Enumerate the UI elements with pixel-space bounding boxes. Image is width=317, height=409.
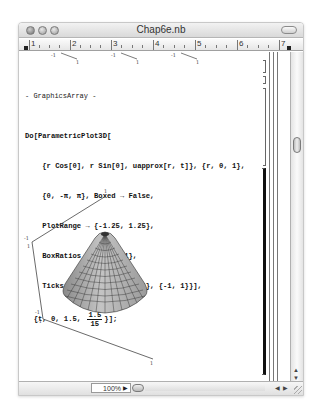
scroll-up-arrow[interactable]: ▲ [293,367,299,373]
group-bracket-line[interactable] [277,52,278,382]
axis-tick-label: -1 [37,318,42,324]
scroll-left-arrow[interactable]: ◀ [275,384,280,391]
previous-graphics-tail [19,52,277,72]
selected-output-bracket[interactable] [262,168,266,375]
cone-surface-graphic [19,192,219,367]
scroll-right-arrow[interactable]: ▶ [283,384,288,391]
code-line: Do[ParametricPlot3D[ [25,131,245,141]
horizontal-scroll-thumb[interactable] [132,384,144,392]
axis-tick-label: 1 [150,360,153,366]
notebook-window: Chap6e.nb 1 2 3 4 5 6 7 -1 1 -1 [18,22,304,396]
ruler-number: 3 [113,39,117,48]
group-bracket-line[interactable] [269,52,270,382]
tick-label: -1 [171,52,176,58]
resize-grip-icon[interactable] [294,386,302,394]
ruler-tick [279,40,280,50]
parametric-plot-3d[interactable]: 1 -1 1 -1 -1 1 [19,192,219,367]
cell-bracket[interactable] [263,76,266,84]
ruler-tick [153,40,154,50]
group-bracket-line[interactable] [273,52,274,382]
cell-bracket[interactable] [263,60,266,73]
ruler-tick [29,40,30,50]
ruler-tick [237,40,238,50]
left-margin-marker[interactable] [24,46,28,50]
code-line: {r Cos[θ], r Sin[θ], uapprox[r, t]}, {r,… [25,161,245,171]
tick-label: -1 [51,52,56,58]
ruler[interactable]: 1 2 3 4 5 6 7 [19,39,303,51]
toolbar-toggle-button[interactable] [281,26,297,34]
ruler-number: 4 [155,39,159,48]
axis-tick-label: -1 [24,235,29,241]
tick-label: 1 [196,59,199,65]
vertical-scrollbar[interactable]: ▲ ▼ [290,52,303,383]
title-bar[interactable]: Chap6e.nb [19,23,303,38]
ruler-tick [195,40,196,50]
ruler-number: 1 [31,39,35,48]
ruler-number: 7 [281,39,285,48]
zoom-menu-arrow-icon[interactable]: ▶ [123,384,128,393]
notebook-content: -1 1 -1 1 -1 1 - GraphicsArray - Do[Para… [19,52,277,382]
zoom-level-popup[interactable]: 100% ▶ [91,383,131,393]
ruler-number: 5 [197,39,201,48]
axis-tick-label: -1 [35,309,40,315]
right-margin-marker[interactable] [287,46,291,50]
horizontal-scroll-track[interactable] [145,385,265,391]
cell-bracket[interactable] [263,88,266,166]
graphics-array-label: - GraphicsArray - [25,92,96,100]
vertical-scroll-thumb[interactable] [293,137,301,153]
tick-label: 1 [76,59,79,65]
ruler-tick [111,40,112,50]
tick-label: -1 [111,52,116,58]
ruler-tick [70,40,71,50]
window-title: Chap6e.nb [19,24,303,35]
status-bar: 100% ▶ ◀ ▶ [19,381,303,395]
axis-tick-label: 1 [27,243,30,249]
axis-tick-label: 1 [104,188,107,194]
zoom-level: 100% [103,385,121,392]
ruler-number: 6 [239,39,243,48]
ruler-number: 2 [72,39,76,48]
tick-label: 1 [136,59,139,65]
